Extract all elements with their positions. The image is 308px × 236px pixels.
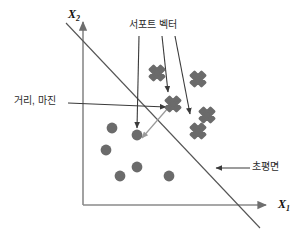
cross-marker bbox=[196, 104, 217, 125]
svm-hyperplane-diagram: 서포트 벡터 거리, 마진 초평면 X2 X1 bbox=[0, 0, 308, 236]
dot-marker bbox=[115, 171, 126, 182]
scatter-series-dot bbox=[101, 123, 175, 182]
support-vector-label: 서포트 벡터 bbox=[129, 20, 177, 30]
cross-marker bbox=[146, 62, 167, 83]
dot-marker bbox=[107, 123, 118, 134]
y-axis-label-text: X bbox=[68, 7, 76, 21]
x-axis-label-sub: 1 bbox=[286, 204, 290, 213]
x-axis-label-text: X bbox=[278, 197, 286, 211]
x-axis-label: X1 bbox=[278, 198, 290, 213]
hyperplane-label: 초평면 bbox=[252, 162, 279, 172]
diagram-canvas bbox=[0, 0, 308, 236]
y-axis-label-sub: 2 bbox=[76, 14, 80, 23]
support-vector-leader-line-1 bbox=[137, 36, 139, 128]
dot-marker bbox=[101, 145, 112, 156]
y-axis-label: X2 bbox=[68, 8, 80, 23]
margin-label: 거리, 마진 bbox=[14, 96, 56, 106]
dot-marker bbox=[164, 171, 175, 182]
dot-marker bbox=[132, 130, 143, 141]
cross-marker bbox=[187, 68, 208, 89]
cross-marker bbox=[187, 120, 208, 141]
hyperplane-line bbox=[66, 23, 260, 228]
support-vector-leader-line-2 bbox=[162, 36, 168, 92]
dot-marker bbox=[132, 162, 143, 173]
